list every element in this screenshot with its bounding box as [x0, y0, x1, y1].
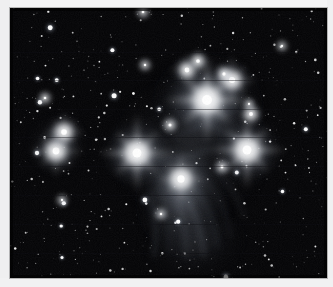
page-margin-right	[327, 0, 333, 287]
pleiades-photograph	[10, 8, 327, 278]
sky-canvas	[10, 8, 327, 278]
page-margin-top	[0, 0, 333, 8]
page-margin-left	[0, 0, 10, 287]
sensor-grain-overlay	[10, 8, 327, 278]
caption-zone	[0, 279, 333, 287]
